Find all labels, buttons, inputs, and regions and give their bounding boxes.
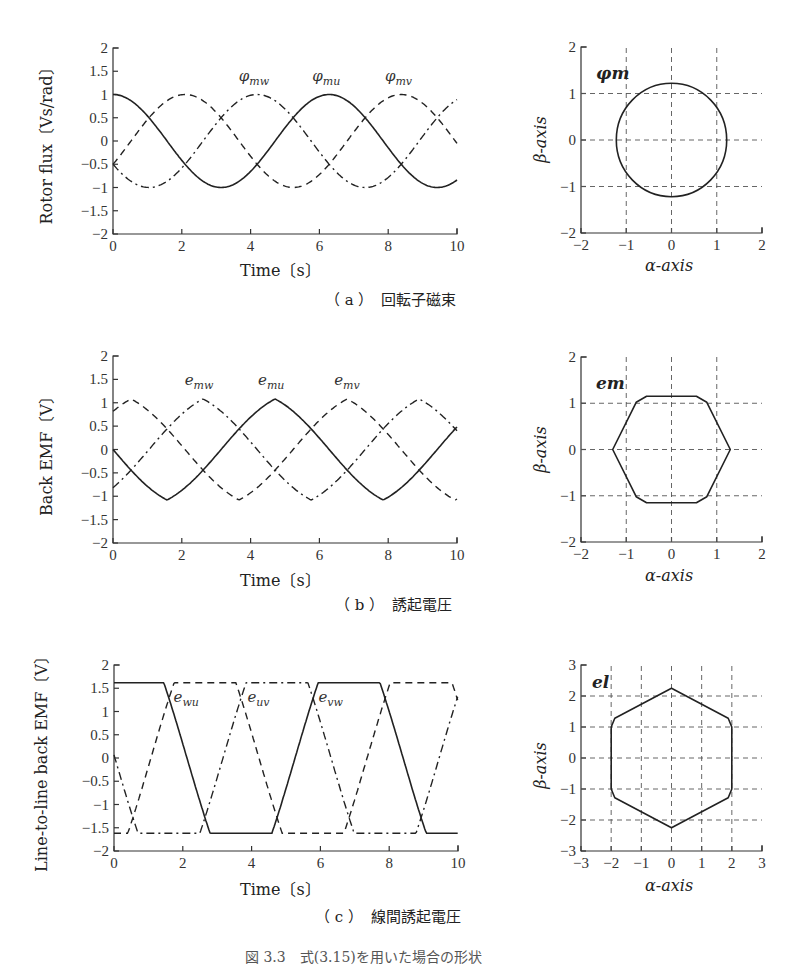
svg-text:2: 2 bbox=[102, 657, 110, 673]
svg-text:−2: −2 bbox=[92, 226, 108, 242]
svg-text:1: 1 bbox=[569, 86, 577, 102]
b-right-xlabel: α-axis bbox=[645, 566, 693, 585]
svg-text:−2: −2 bbox=[560, 225, 576, 241]
svg-text:2: 2 bbox=[758, 546, 766, 562]
caption-c: （ c ） 線間誘起電圧 bbox=[315, 905, 461, 926]
svg-text:−1: −1 bbox=[633, 855, 649, 871]
svg-text:8: 8 bbox=[385, 855, 393, 871]
svg-text:4: 4 bbox=[247, 547, 255, 563]
svg-text:2: 2 bbox=[758, 237, 766, 253]
svg-text:0: 0 bbox=[668, 855, 676, 871]
svg-text:2: 2 bbox=[179, 855, 187, 871]
label-φmu: φmu bbox=[312, 67, 340, 88]
svg-text:2: 2 bbox=[728, 855, 736, 871]
svg-text:1.5: 1.5 bbox=[89, 371, 108, 387]
chart-b_time: 0246810−2−1.5−1−0.500.511.52emwemuemv bbox=[81, 348, 465, 563]
series-emu bbox=[113, 399, 457, 500]
svg-text:2: 2 bbox=[101, 348, 109, 364]
svg-text:0: 0 bbox=[668, 546, 676, 562]
svg-text:1: 1 bbox=[713, 546, 721, 562]
svg-text:3: 3 bbox=[758, 855, 766, 871]
svg-text:−1: −1 bbox=[560, 488, 576, 504]
svg-text:−1: −1 bbox=[560, 781, 576, 797]
svg-text:−2: −2 bbox=[560, 534, 576, 550]
a-right-xlabel: α-axis bbox=[645, 256, 693, 275]
svg-text:0.5: 0.5 bbox=[89, 418, 108, 434]
svg-text:1.5: 1.5 bbox=[89, 63, 108, 79]
a-right-ylabel: β-axis bbox=[531, 100, 550, 180]
svg-text:0: 0 bbox=[668, 237, 676, 253]
svg-text:−1.5: −1.5 bbox=[82, 820, 109, 836]
svg-text:6: 6 bbox=[317, 855, 325, 871]
chart-b_ab: −2−1012−2−1012 bbox=[560, 349, 766, 562]
svg-text:0.5: 0.5 bbox=[90, 727, 109, 743]
svg-text:2: 2 bbox=[569, 688, 577, 704]
svg-text:0: 0 bbox=[109, 547, 117, 563]
svg-text:−2: −2 bbox=[93, 843, 109, 859]
svg-text:8: 8 bbox=[384, 238, 392, 254]
chart-c_ab: −3−2−10123−3−2−10123 bbox=[560, 657, 766, 871]
svg-text:8: 8 bbox=[384, 547, 392, 563]
series-φmw bbox=[113, 95, 457, 188]
svg-text:1: 1 bbox=[101, 87, 109, 103]
c-right-xlabel: α-axis bbox=[645, 876, 693, 895]
svg-text:−2: −2 bbox=[560, 812, 576, 828]
chart-a_time: 0246810−2−1.5−1−0.500.511.52φmwφmuφmv bbox=[81, 40, 465, 254]
svg-text:0: 0 bbox=[569, 750, 577, 766]
svg-text:−1: −1 bbox=[92, 488, 108, 504]
svg-text:−1: −1 bbox=[618, 546, 634, 562]
svg-text:2: 2 bbox=[178, 238, 186, 254]
label-emw: emw bbox=[185, 371, 214, 392]
svg-text:−0.5: −0.5 bbox=[81, 156, 108, 172]
svg-text:2: 2 bbox=[178, 547, 186, 563]
svg-text:10: 10 bbox=[451, 855, 466, 871]
svg-text:6: 6 bbox=[316, 238, 324, 254]
svg-text:0: 0 bbox=[101, 133, 109, 149]
svg-text:2: 2 bbox=[101, 40, 109, 56]
svg-text:−1: −1 bbox=[560, 179, 576, 195]
svg-text:1.5: 1.5 bbox=[90, 680, 109, 696]
b-right-tag: em bbox=[596, 373, 625, 393]
svg-text:4: 4 bbox=[247, 238, 255, 254]
chart-a_ab: −2−1012−2−1012 bbox=[560, 39, 766, 253]
svg-text:1: 1 bbox=[102, 704, 110, 720]
svg-text:2: 2 bbox=[569, 39, 577, 55]
svg-text:10: 10 bbox=[450, 547, 465, 563]
svg-text:3: 3 bbox=[569, 657, 577, 673]
b-left-xlabel: Time〔s〕 bbox=[240, 567, 321, 591]
a-left-ylabel: Rotor flux〔Vs/rad〕 bbox=[33, 42, 57, 242]
svg-text:0: 0 bbox=[102, 750, 110, 766]
label-emv: emv bbox=[334, 371, 360, 392]
svg-text:−0.5: −0.5 bbox=[82, 773, 109, 789]
svg-text:−1.5: −1.5 bbox=[81, 512, 108, 528]
svg-text:4: 4 bbox=[248, 855, 256, 871]
svg-text:0.5: 0.5 bbox=[89, 110, 108, 126]
label-emu: emu bbox=[258, 371, 284, 392]
c-right-tag: el bbox=[592, 672, 609, 692]
svg-text:−2: −2 bbox=[603, 855, 619, 871]
a-right-tag: φm bbox=[596, 63, 629, 83]
svg-text:−0.5: −0.5 bbox=[81, 465, 108, 481]
figure-caption: 図 3.3 式(3.15)を用いた場合の形状 bbox=[245, 946, 482, 966]
chart-c_time: 0246810−2−1.5−1−0.500.511.52ewueuvevw bbox=[82, 657, 466, 871]
series-evw bbox=[114, 683, 458, 834]
svg-text:−3: −3 bbox=[560, 843, 576, 859]
label-ewu: ewu bbox=[174, 688, 199, 709]
caption-b: （ b ） 誘起電圧 bbox=[335, 593, 452, 614]
svg-text:1: 1 bbox=[713, 237, 721, 253]
svg-text:6: 6 bbox=[316, 547, 324, 563]
svg-text:0: 0 bbox=[569, 442, 577, 458]
svg-text:1: 1 bbox=[569, 395, 577, 411]
label-φmv: φmv bbox=[385, 67, 413, 88]
c-right-ylabel: β-axis bbox=[531, 726, 550, 806]
caption-a: （ a ） 回転子磁束 bbox=[325, 288, 456, 309]
series-euv bbox=[114, 683, 458, 834]
c-left-xlabel: Time〔s〕 bbox=[240, 876, 321, 900]
svg-text:1: 1 bbox=[698, 855, 706, 871]
svg-text:−1: −1 bbox=[93, 797, 109, 813]
a-left-xlabel: Time〔s〕 bbox=[240, 257, 321, 281]
svg-text:0: 0 bbox=[569, 132, 577, 148]
svg-text:10: 10 bbox=[450, 238, 465, 254]
svg-text:1: 1 bbox=[101, 395, 109, 411]
